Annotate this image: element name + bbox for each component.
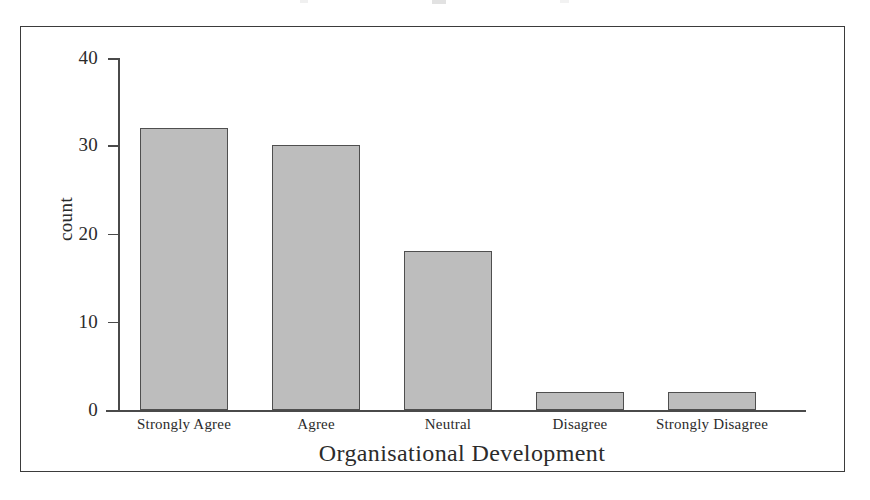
y-axis-tick-40 — [108, 58, 118, 60]
y-axis-line — [118, 58, 120, 411]
y-axis-title: count — [55, 197, 77, 241]
x-axis-tick-label-agree: Agree — [246, 416, 386, 433]
y-axis-tick-label-0: 0 — [34, 399, 98, 421]
bar-strongly-disagree — [668, 392, 756, 410]
y-axis-tick-label-40: 40 — [34, 47, 98, 69]
y-axis-tick-20 — [108, 234, 118, 236]
y-axis-tick-label-10: 10 — [34, 311, 98, 333]
x-axis-tick-label-strongly-disagree: Strongly Disagree — [637, 416, 787, 433]
bar-agree — [272, 145, 360, 410]
y-axis-tick-10 — [108, 322, 118, 324]
chart-page: 0 10 20 30 40 count Strongly Agree Agree… — [0, 0, 870, 500]
y-axis-tick-label-30: 30 — [34, 134, 98, 156]
bar-disagree — [536, 392, 624, 410]
y-axis-tick-30 — [108, 145, 118, 147]
x-axis-title: Organisational Development — [118, 440, 806, 467]
x-axis-tick-label-disagree: Disagree — [510, 416, 650, 433]
bar-strongly-agree — [140, 128, 228, 410]
x-axis-line — [106, 410, 806, 412]
bar-neutral — [404, 251, 492, 410]
x-axis-tick-label-strongly-agree: Strongly Agree — [114, 416, 254, 433]
x-axis-tick-label-neutral: Neutral — [378, 416, 518, 433]
bar-chart-plot: 0 10 20 30 40 count Strongly Agree Agree… — [0, 0, 870, 500]
y-axis-tick-0 — [108, 410, 118, 412]
